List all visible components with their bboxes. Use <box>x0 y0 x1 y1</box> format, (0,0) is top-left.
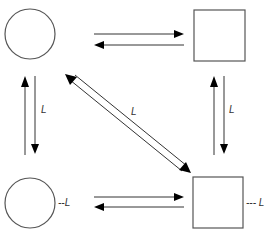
arrow-up-icon <box>210 76 218 87</box>
diagram-canvas: L L L --L --- L <box>0 0 272 233</box>
arrow-up-icon <box>21 76 29 87</box>
label-right-vertical: L <box>229 104 235 115</box>
arrow-right-icon <box>174 30 184 38</box>
arrow-left-icon <box>94 203 104 211</box>
arrow-down-right-icon <box>179 162 191 173</box>
arrow-down-icon <box>220 144 228 154</box>
label-left-vertical: L <box>41 104 47 115</box>
annotation-bottom-left: --L <box>58 197 70 208</box>
edge-top-horizontal <box>94 30 184 49</box>
arrow-down-icon <box>31 144 39 154</box>
node-top-left-circle <box>5 9 55 59</box>
node-bottom-right-square <box>193 177 243 228</box>
arrow-right-icon <box>174 193 184 201</box>
edge-left-vertical: L <box>21 76 47 155</box>
edge-bottom-horizontal <box>94 193 184 211</box>
edge-right-vertical: L <box>210 76 235 155</box>
arrow-left-icon <box>94 41 104 49</box>
node-top-right-square <box>194 10 245 61</box>
annotation-bottom-right: --- L <box>246 197 264 208</box>
label-diagonal: L <box>131 106 137 117</box>
node-bottom-left-circle <box>5 178 55 228</box>
edge-diagonal: L <box>65 74 191 173</box>
